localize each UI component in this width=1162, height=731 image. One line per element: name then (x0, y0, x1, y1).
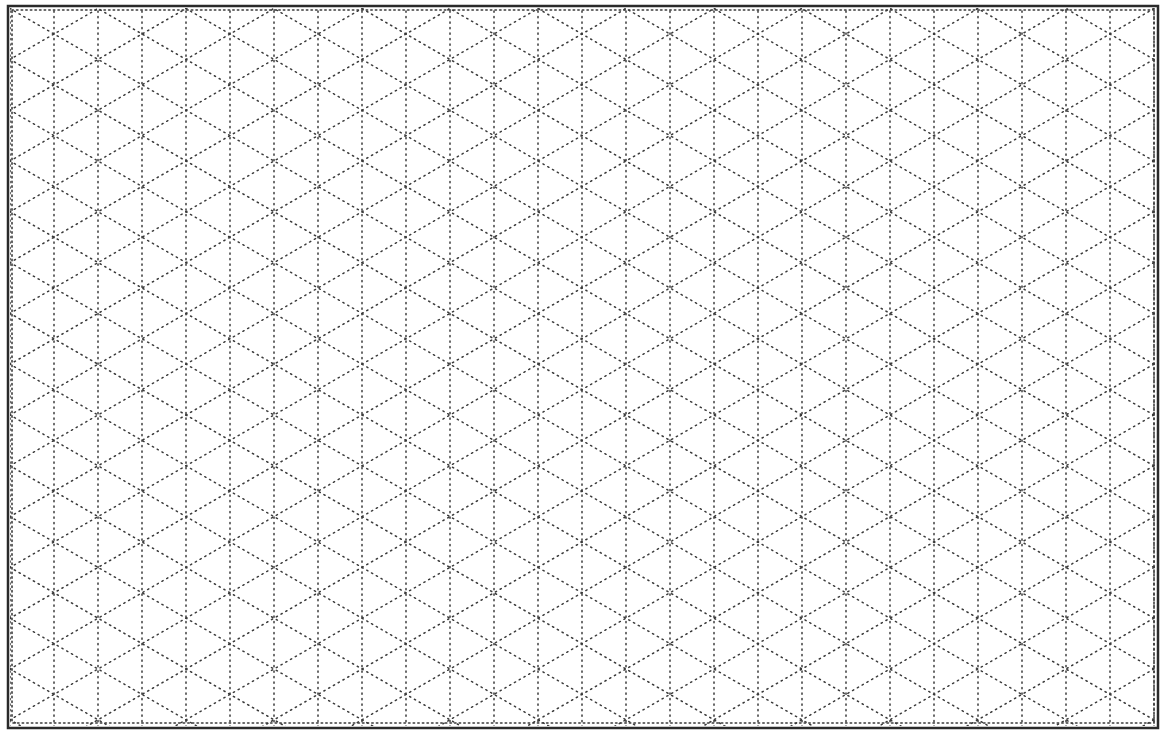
diagonal-grid-line (0, 0, 1162, 218)
diagonal-grid-line (0, 105, 1162, 731)
diagonal-grid-line (0, 0, 1162, 472)
diagonal-grid-line (0, 0, 1162, 267)
diagonal-grid-line (0, 0, 1162, 115)
grid-lines (0, 0, 1162, 731)
diagonal-grid-line (0, 206, 1162, 731)
diagonal-grid-line (0, 563, 1162, 731)
diagonal-grid-line (0, 0, 1162, 217)
diagonal-grid-line (0, 0, 1162, 370)
diagonal-grid-line (0, 612, 1162, 731)
diagonal-grid-line (0, 0, 1162, 166)
diagonal-grid-line (0, 4, 1162, 675)
diagonal-grid-line (0, 613, 1162, 731)
diagonal-grid-line (0, 257, 1162, 731)
diagonal-grid-line (0, 258, 1162, 731)
diagonal-grid-line (0, 55, 1162, 726)
diagonal-grid-line (0, 0, 1162, 268)
diagonal-grid-line (0, 207, 1162, 731)
diagonal-grid-line (0, 0, 1162, 167)
isometric-grid (0, 0, 1162, 731)
diagonal-grid-line (0, 0, 1162, 624)
diagonal-grid-line (0, 0, 1162, 521)
diagonal-grid-line (0, 663, 1162, 731)
diagonal-grid-line (0, 0, 1162, 318)
diagonal-grid-line (0, 358, 1162, 731)
diagonal-grid-line (0, 309, 1162, 731)
diagonal-grid-line (0, 409, 1162, 731)
diagonal-grid-line (0, 0, 1162, 369)
diagonal-grid-line (0, 562, 1162, 731)
diagonal-grid-line (0, 511, 1162, 731)
diagonal-grid-line (0, 308, 1162, 731)
diagonal-grid-line (0, 0, 1162, 116)
diagonal-grid-line (0, 0, 1162, 319)
diagonal-grid-line (0, 104, 1162, 731)
diagonal-grid-line (0, 54, 1162, 725)
diagonal-grid-line (0, 359, 1162, 731)
diagonal-grid-line (0, 461, 1162, 731)
diagonal-grid-line (0, 410, 1162, 731)
diagonal-grid-line (0, 0, 1162, 471)
diagonal-grid-line (0, 0, 1162, 420)
diagonal-grid-line (0, 0, 1162, 623)
diagonal-grid-line (0, 0, 1162, 522)
diagonal-grid-line (0, 0, 1162, 421)
diagonal-grid-line (0, 3, 1162, 674)
diagonal-grid-line (0, 460, 1162, 731)
diagonal-grid-line (0, 512, 1162, 731)
